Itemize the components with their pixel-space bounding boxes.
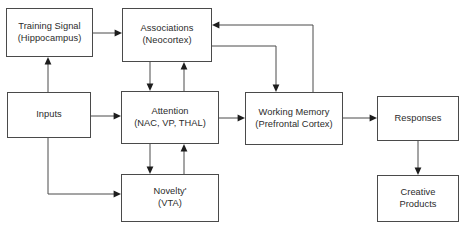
node-attention[interactable]: Attention (NAC, VP, THAL) [121, 91, 219, 144]
node-training-signal[interactable]: Training Signal (Hippocampus) [6, 8, 93, 57]
flow-diagram: Training Signal (Hippocampus) Associatio… [0, 0, 467, 230]
node-inputs[interactable]: Inputs [7, 92, 91, 138]
edge-attention-to-associations [181, 62, 188, 91]
node-novelty-line2: (VTA) [158, 198, 182, 210]
node-creative-products-line2: Products [399, 199, 436, 211]
edge-novelty-to-attention [181, 144, 188, 174]
node-attention-line2: (NAC, VP, THAL) [134, 118, 206, 130]
edge-inputs-to-attention [91, 113, 121, 120]
edge-associations-to-working-memory [212, 46, 279, 92]
node-responses[interactable]: Responses [377, 96, 459, 141]
edge-attention-to-novelty [147, 144, 154, 174]
node-creative-products-line1: Creative [400, 187, 435, 199]
node-creative-products[interactable]: Creative Products [377, 175, 459, 222]
edge-associations-to-attention [147, 62, 154, 91]
node-attention-line1: Attention [151, 106, 188, 118]
edge-attention-to-working-memory [219, 115, 245, 122]
node-novelty[interactable]: Novelty' (VTA) [121, 174, 219, 222]
edge-working-memory-to-responses [343, 115, 377, 122]
edge-inputs-to-novelty [48, 138, 121, 197]
node-associations-line1: Associations [141, 23, 194, 35]
node-working-memory-line1: Working Memory [259, 107, 330, 119]
edge-working-memory-to-associations [212, 22, 313, 92]
node-novelty-line1: Novelty' [153, 186, 186, 198]
edge-responses-to-creative-products [415, 141, 422, 175]
node-working-memory-line2: (Prefrontal Cortex) [255, 119, 332, 131]
edge-training-signal-to-associations [93, 30, 122, 37]
node-responses-line1: Responses [395, 113, 442, 125]
node-training-signal-line2: (Hippocampus) [18, 33, 82, 45]
node-associations-line2: (Neocortex) [142, 35, 191, 47]
node-associations[interactable]: Associations (Neocortex) [122, 8, 212, 62]
edge-inputs-to-training-signal [45, 57, 52, 92]
node-working-memory[interactable]: Working Memory (Prefrontal Cortex) [245, 92, 343, 145]
node-inputs-line1: Inputs [36, 109, 62, 121]
node-training-signal-line1: Training Signal [18, 21, 80, 33]
